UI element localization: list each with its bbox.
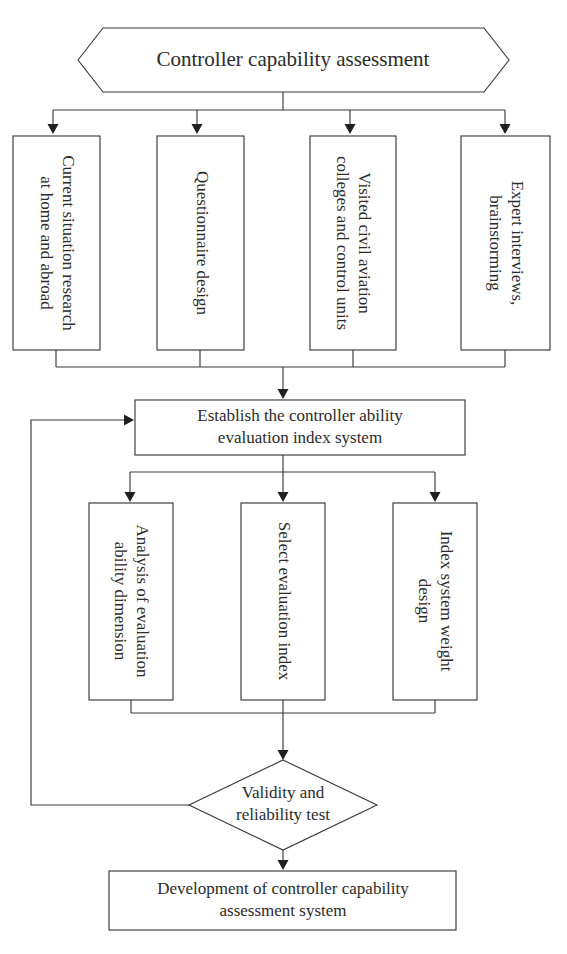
- flowchart-diagram: Controller capability assessment Current…: [0, 0, 567, 954]
- node-establish: Establish the controller ability evaluat…: [135, 400, 465, 455]
- node-start-label: Controller capability assessment: [157, 47, 430, 71]
- node-decision-label-line-1: Validity and: [242, 783, 325, 802]
- node-establish-label-line-2: evaluation index system: [218, 428, 382, 447]
- node-input-4: Expert interviews, brainstorming: [461, 136, 550, 350]
- node-input-2: Questionnaire design: [157, 136, 244, 350]
- node-end: Development of controller capability ass…: [109, 871, 456, 930]
- flowchart-canvas: Controller capability assessment Current…: [0, 0, 567, 954]
- connector-establish-to-steps-bus: [125, 455, 441, 502]
- node-decision-label-line-2: reliability test: [236, 805, 330, 824]
- node-step-1: Analysis of evaluation ability dimension: [89, 503, 173, 700]
- node-input-3: Visited civil aviation colleges and cont…: [310, 136, 396, 350]
- node-step-3: Index system weight design: [393, 503, 477, 700]
- node-input-4-label-line-2: brainstorming: [486, 195, 505, 291]
- node-step-2: Select evaluation index: [241, 503, 325, 700]
- node-input-3-label-line-2: colleges and control units: [333, 156, 352, 330]
- node-start: Controller capability assessment: [78, 28, 509, 92]
- connector-start-to-inputs-bus: [48, 92, 511, 134]
- node-input-2-label-line-1: Questionnaire design: [193, 171, 212, 315]
- node-end-label-line-1: Development of controller capability: [157, 879, 409, 898]
- arrow-head-icon-end: [278, 860, 289, 870]
- node-establish-label-line-1: Establish the controller ability: [197, 406, 403, 425]
- node-step-1-label-line-2: ability dimension: [111, 542, 130, 661]
- node-step-2-label-line-1: Select evaluation index: [275, 522, 294, 681]
- node-input-1-label-line-1: Current situation research: [59, 155, 78, 331]
- node-decision: Validity and reliability test: [189, 760, 377, 850]
- connector-steps-to-decision: [131, 700, 435, 760]
- node-step-3-label-line-2: design: [415, 579, 434, 624]
- arrow-head-icon-4: [500, 124, 511, 134]
- node-input-4-label-line-1: Expert interviews,: [508, 181, 527, 306]
- arrow-head-icon-step-1: [125, 492, 136, 502]
- node-input-1-label-line-2: at home and abroad: [37, 176, 56, 310]
- node-end-label-line-2: assessment system: [219, 901, 346, 920]
- arrow-head-icon-1: [48, 124, 59, 134]
- arrow-head-icon-2: [192, 124, 203, 134]
- node-step-1-label-line-1: Analysis of evaluation: [133, 525, 152, 678]
- arrow-head-icon-3: [345, 124, 356, 134]
- arrow-head-icon-step-3: [430, 492, 441, 502]
- node-input-1: Current situation research at home and a…: [13, 136, 100, 350]
- node-input-3-label-line-1: Visited civil aviation: [355, 172, 374, 314]
- node-step-3-label-line-1: Index system weight: [437, 531, 456, 672]
- arrow-head-icon-establish: [278, 389, 289, 399]
- connector-decision-to-end: [278, 850, 289, 870]
- arrow-head-icon-decision: [278, 750, 289, 760]
- arrow-head-icon-step-2: [278, 492, 289, 502]
- connector-inputs-to-establish: [56, 350, 505, 399]
- arrow-head-icon-feedback: [124, 415, 134, 426]
